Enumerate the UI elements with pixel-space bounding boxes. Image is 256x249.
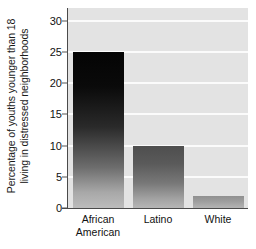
bar-chart-figure: Percentage of youths younger than 18 liv… [0, 0, 256, 249]
y-axis-tick-label: 5 [36, 171, 62, 182]
x-axis-tick-label: White [188, 213, 248, 226]
gridline [68, 20, 248, 22]
bar-african-american [73, 52, 124, 208]
x-axis-tick-label: Latino [128, 213, 188, 226]
y-axis-label-text: Percentage of youths younger than 18 liv… [5, 19, 31, 193]
y-axis-tick-label: 10 [36, 140, 62, 151]
y-axis-label: Percentage of youths younger than 18 liv… [0, 0, 36, 212]
x-axis-tick-label: AfricanAmerican [68, 213, 128, 238]
y-axis-spine [67, 8, 68, 209]
y-axis-tick-label: 20 [36, 78, 62, 89]
x-axis-tick-labels: AfricanAmericanLatinoWhite [68, 213, 248, 247]
x-axis-tick-label-line: White [188, 213, 248, 226]
plot-area [68, 8, 248, 208]
x-axis-tick-label-line: American [68, 226, 128, 239]
bar-latino [133, 146, 184, 209]
y-axis-label-line-1: Percentage of youths younger than 18 [5, 19, 18, 193]
x-axis-tick-label-line: Latino [128, 213, 188, 226]
y-axis-tick-label: 0 [36, 203, 62, 214]
bar-white [193, 196, 244, 209]
x-axis-spine [62, 208, 248, 209]
x-axis-tick-label-line: African [68, 213, 128, 226]
y-axis-tick-label: 15 [36, 109, 62, 120]
y-axis-tick-label: 25 [36, 46, 62, 57]
y-axis-tick-labels: 051015202530 [36, 0, 62, 249]
y-axis-label-line-2: living in distressed neighborhoods [18, 19, 31, 193]
y-axis-tick-label: 30 [36, 15, 62, 26]
